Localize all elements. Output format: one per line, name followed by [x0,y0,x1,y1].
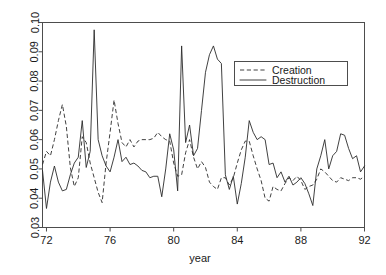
y-axis-tick-labels: 0.030.040.050.060.070.080.090.10 [29,12,41,238]
x-tick-label: 88 [295,234,307,246]
y-tick-label: 0.10 [29,12,41,33]
x-tick-label: 72 [40,234,52,246]
y-tick-label: 0.06 [29,129,41,150]
y-tick-label: 0.04 [29,188,41,209]
x-tick-label: 76 [104,234,116,246]
x-axis-title: year [189,252,211,264]
series-line-creation [43,100,365,203]
x-axis-tick-labels: 727680848892 [40,234,370,246]
x-axis-tick-marks [46,228,364,232]
y-tick-label: 0.05 [29,158,41,179]
series-line-destruction [43,30,365,209]
x-tick-label: 80 [168,234,180,246]
y-tick-label: 0.08 [29,70,41,91]
legend-label-destruction: Destruction [272,74,325,86]
x-tick-label: 92 [358,234,370,246]
y-tick-label: 0.03 [29,217,41,238]
chart-figure: 0.030.040.050.060.070.080.090.10 7276808… [0,0,386,275]
x-tick-label: 84 [231,234,243,246]
chart-legend[interactable]: Creation Destruction [235,62,348,86]
y-tick-label: 0.09 [29,41,41,62]
y-tick-label: 0.07 [29,100,41,121]
line-chart-canvas: 0.030.040.050.060.070.080.090.10 7276808… [0,0,386,275]
